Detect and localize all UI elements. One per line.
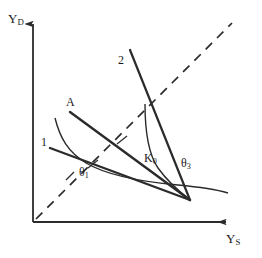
- point-label-K0-sub: 0: [153, 157, 157, 166]
- angle-tick-theta1: [66, 172, 74, 180]
- y-axis-label-sub: D: [17, 17, 23, 27]
- curve-label-2: 2: [118, 54, 124, 66]
- angle-label-theta3: θ3: [181, 157, 191, 171]
- point-label-K0-main: K: [144, 151, 153, 165]
- curve-label-1: 1: [41, 136, 47, 148]
- ray-1: [50, 148, 190, 200]
- forty-five-degree-dashed-line: [36, 23, 232, 219]
- curve-label-A: A: [66, 96, 75, 108]
- angle-label-theta1: θ1: [79, 166, 89, 180]
- point-label-K0: K0: [144, 152, 157, 166]
- economics-diagram: YD YS A 1 2 K0 θ1 θ3: [0, 0, 262, 258]
- y-axis-label-main: Y: [8, 11, 17, 26]
- x-axis-label-main: Y: [226, 231, 235, 246]
- x-axis-label-sub: S: [235, 237, 240, 247]
- angle-label-theta3-sub: 3: [187, 162, 191, 171]
- diagram-canvas: [0, 0, 262, 258]
- angle-label-theta1-sub: 1: [85, 171, 89, 180]
- y-axis-label: YD: [8, 12, 24, 27]
- x-axis-label: YS: [226, 232, 240, 247]
